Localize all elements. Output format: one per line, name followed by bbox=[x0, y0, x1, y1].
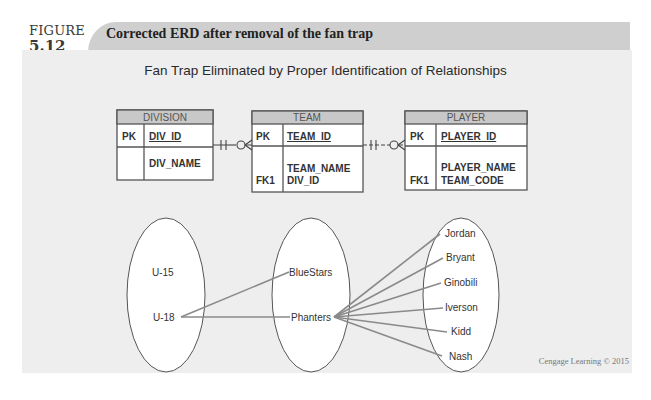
player-set-ellipse bbox=[423, 218, 499, 372]
player-pk-field: PLAYER_ID bbox=[441, 131, 496, 142]
player-item-ginobili: Ginobili bbox=[444, 277, 477, 288]
division-attr-0: DIV_NAME bbox=[149, 158, 201, 169]
player-item-nash: Nash bbox=[449, 351, 472, 362]
division-set-ellipse bbox=[127, 218, 205, 372]
entity-player: PLAYER PK PLAYER_ID PLAYER_NAME TEAM_COD… bbox=[405, 111, 527, 190]
player-attr-1: TEAM_CODE bbox=[441, 175, 504, 186]
optional-circle-icon bbox=[237, 141, 245, 149]
team-pk-label: PK bbox=[256, 131, 271, 142]
entity-player-name: PLAYER bbox=[447, 112, 486, 123]
division-item-u18: U-18 bbox=[153, 312, 175, 323]
division-pk-field: DIV_ID bbox=[149, 131, 181, 142]
entity-team-name: TEAM bbox=[293, 112, 321, 123]
team-attr-0: TEAM_NAME bbox=[287, 163, 351, 174]
team-item-bluestars: BlueStars bbox=[289, 267, 332, 278]
player-item-jordan: Jordan bbox=[445, 228, 476, 239]
relationship-team-player bbox=[363, 140, 405, 150]
entity-team: TEAM PK TEAM_ID TEAM_NAME DIV_ID FK1 bbox=[252, 111, 363, 192]
crows-foot-icon bbox=[398, 140, 405, 145]
team-item-phanters: Phanters bbox=[291, 312, 331, 323]
copyright-credit: Cengage Learning © 2015 bbox=[539, 356, 629, 366]
relationship-division-team bbox=[213, 140, 252, 150]
player-fk-label: FK1 bbox=[410, 175, 429, 186]
team-fk-label: FK1 bbox=[256, 175, 275, 186]
optional-circle-icon bbox=[390, 141, 398, 149]
team-pk-field: TEAM_ID bbox=[287, 131, 331, 142]
team-attr-1: DIV_ID bbox=[287, 175, 319, 186]
division-pk-label: PK bbox=[122, 131, 137, 142]
entity-division: DIVISION PK DIV_ID DIV_NAME bbox=[117, 110, 213, 180]
player-item-bryant: Bryant bbox=[446, 252, 475, 263]
division-item-u15: U-15 bbox=[152, 267, 174, 278]
crows-foot-icon bbox=[245, 140, 252, 145]
player-item-iverson: Iverson bbox=[445, 302, 478, 313]
player-item-kidd: Kidd bbox=[451, 326, 471, 337]
team-set-ellipse bbox=[272, 218, 350, 372]
player-pk-label: PK bbox=[410, 131, 425, 142]
entity-division-name: DIVISION bbox=[143, 112, 187, 123]
player-attr-0: PLAYER_NAME bbox=[441, 162, 516, 173]
erd-diagram: DIVISION PK DIV_ID DIV_NAME TEAM PK TEAM… bbox=[0, 0, 651, 400]
